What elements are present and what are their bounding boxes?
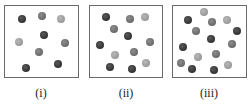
particle-mid <box>228 40 236 48</box>
particle-dark <box>96 41 104 49</box>
particle-dark <box>22 64 30 72</box>
particle-light <box>15 38 23 46</box>
particle-dark <box>106 63 114 71</box>
particle-mid <box>177 59 185 67</box>
panel-label-iii: (iii) <box>189 86 229 101</box>
particle-mid <box>110 25 118 33</box>
particle-light <box>223 16 231 24</box>
particle-mid <box>146 38 154 46</box>
particle-dark <box>207 35 215 43</box>
particle-mid <box>208 18 216 26</box>
panel-label-i: (i) <box>21 86 61 101</box>
particle-light <box>194 53 202 61</box>
particle-dark <box>233 27 241 35</box>
particle-dark <box>102 13 110 21</box>
particle-mid <box>192 27 200 35</box>
particle-light <box>57 15 65 23</box>
particle-light <box>142 59 150 67</box>
particle-mid <box>35 48 43 56</box>
particle-dark <box>210 66 218 74</box>
panel-label-ii: (ii) <box>106 86 146 101</box>
particle-dark <box>124 32 132 40</box>
particle-dark <box>18 15 26 23</box>
particle-dark <box>188 65 196 73</box>
particle-mid <box>212 50 220 58</box>
particle-light <box>224 61 232 69</box>
particle-mid <box>38 12 46 20</box>
particle-mid <box>126 15 134 23</box>
particle-mid <box>61 39 69 47</box>
particle-dark <box>128 65 136 73</box>
particle-light <box>111 51 119 59</box>
particle-light <box>141 13 149 21</box>
particle-mid <box>130 48 138 56</box>
particle-dark <box>184 16 192 24</box>
particle-dark <box>40 31 48 39</box>
particle-dark <box>54 60 62 68</box>
particle-dark <box>179 43 187 51</box>
particle-light <box>200 8 208 16</box>
